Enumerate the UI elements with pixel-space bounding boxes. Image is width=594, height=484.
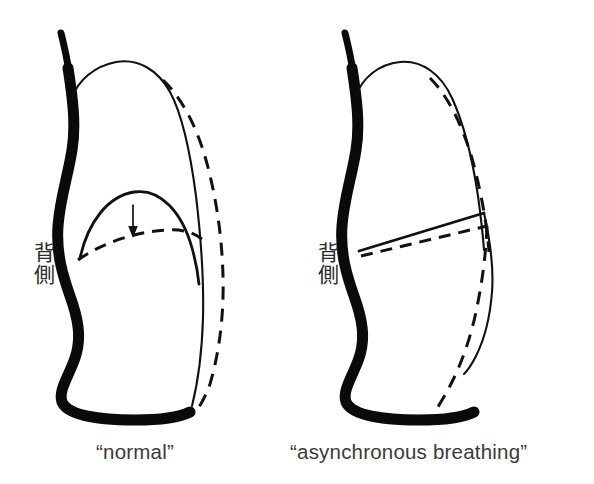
thorax-outline-solid-right bbox=[356, 62, 484, 250]
diaphragm-dashed-left bbox=[78, 230, 203, 260]
panel-normal bbox=[58, 33, 223, 420]
caption-asynchronous-breathing: “asynchronous breathing” bbox=[290, 440, 527, 464]
diagram-svg bbox=[0, 0, 594, 484]
dorsal-label-right: 背 側 bbox=[316, 243, 340, 287]
caption-normal: “normal” bbox=[96, 440, 174, 464]
diaphragm-solid-left bbox=[80, 192, 199, 284]
dorsal-label-left: 背 側 bbox=[32, 243, 56, 287]
abdominal-wall-dashed-right bbox=[436, 226, 487, 410]
dorsal-label-right-char-2: 側 bbox=[316, 265, 340, 287]
dorsal-label-left-char-1: 背 bbox=[32, 243, 56, 265]
figure-root: 背 側 背 側 “normal” “asynchronous breathing… bbox=[0, 0, 594, 484]
dorsal-label-right-char-1: 背 bbox=[316, 243, 340, 265]
dorsal-label-left-char-2: 側 bbox=[32, 265, 56, 287]
panel-asynchronous bbox=[342, 33, 493, 420]
dorsal-spine-outline-left bbox=[58, 68, 190, 420]
